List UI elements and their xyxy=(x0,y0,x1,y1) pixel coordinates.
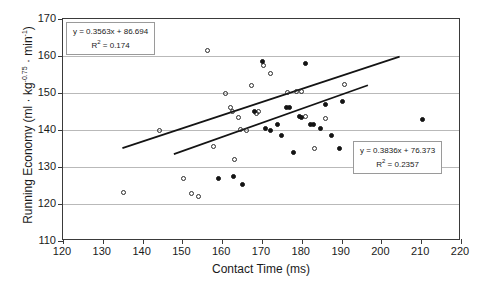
data-point-open-circles xyxy=(323,116,328,121)
x-tick-label: 190 xyxy=(321,246,361,257)
data-point-filled-circles xyxy=(260,59,265,64)
data-point-open-circles xyxy=(189,191,194,196)
data-point-open-circles xyxy=(249,83,254,88)
x-tick-mark xyxy=(182,239,183,244)
data-point-open-circles xyxy=(223,91,228,96)
y-tick-mark xyxy=(58,167,63,168)
data-point-filled-circles xyxy=(268,128,273,133)
x-tick-label: 120 xyxy=(42,246,82,257)
x-tick-mark xyxy=(63,239,64,244)
y-tick-mark xyxy=(58,204,63,205)
upper-equation-text: y = 0.3563x + 86.694 xyxy=(73,26,148,37)
data-point-open-circles xyxy=(196,194,201,199)
data-point-filled-circles xyxy=(340,99,345,104)
data-point-filled-circles xyxy=(287,105,292,110)
x-tick-mark xyxy=(143,239,144,244)
data-point-filled-circles xyxy=(420,117,425,122)
x-tick-label: 220 xyxy=(440,246,480,257)
x-tick-label: 160 xyxy=(201,246,241,257)
x-tick-mark xyxy=(302,239,303,244)
x-tick-label: 140 xyxy=(122,246,162,257)
data-point-open-circles xyxy=(121,190,126,195)
data-point-open-circles xyxy=(230,109,235,114)
data-point-filled-circles xyxy=(303,61,308,66)
scatter-chart: 110120130140150160170 120130140150160170… xyxy=(0,0,486,284)
x-tick-mark xyxy=(342,239,343,244)
data-point-open-circles xyxy=(244,128,249,133)
lower-r2-text: R2 = 0.2357 xyxy=(360,156,435,170)
x-tick-label: 200 xyxy=(360,246,400,257)
data-point-open-circles xyxy=(299,89,304,94)
data-point-open-circles xyxy=(285,90,290,95)
x-tick-label: 150 xyxy=(161,246,201,257)
data-point-filled-circles xyxy=(216,176,221,181)
y-tick-mark xyxy=(58,93,63,94)
y-tick-mark xyxy=(58,56,63,57)
data-point-filled-circles xyxy=(329,133,334,138)
lower-trendline-equation-box: y = 0.3836x + 76.373 R2 = 0.2357 xyxy=(353,141,442,174)
x-tick-mark xyxy=(421,239,422,244)
upper-r2-text: R2 = 0.174 xyxy=(73,37,148,51)
x-axis-tick-labels: 120130140150160170180190200210220 xyxy=(62,246,460,260)
data-point-open-circles xyxy=(205,48,210,53)
data-point-open-circles xyxy=(181,176,186,181)
data-point-filled-circles xyxy=(299,115,304,120)
lower-equation-text: y = 0.3836x + 76.373 xyxy=(360,145,435,156)
data-point-open-circles xyxy=(312,146,317,151)
x-tick-mark xyxy=(461,239,462,244)
data-point-filled-circles xyxy=(323,102,328,107)
x-tick-label: 170 xyxy=(241,246,281,257)
data-point-open-circles xyxy=(268,71,273,76)
x-tick-mark xyxy=(222,239,223,244)
y-tick-mark xyxy=(58,130,63,131)
data-point-open-circles xyxy=(157,128,162,133)
data-point-filled-circles xyxy=(252,109,257,114)
data-point-filled-circles xyxy=(337,146,342,151)
data-point-open-circles xyxy=(236,115,241,120)
data-point-open-circles xyxy=(303,114,308,119)
data-point-open-circles xyxy=(294,89,299,94)
data-point-filled-circles xyxy=(275,122,280,127)
x-tick-label: 130 xyxy=(82,246,122,257)
x-tick-label: 210 xyxy=(400,246,440,257)
y-tick-mark xyxy=(58,19,63,20)
data-point-filled-circles xyxy=(311,122,316,127)
x-tick-mark xyxy=(381,239,382,244)
data-point-open-circles xyxy=(261,63,266,68)
upper-trendline-equation-box: y = 0.3563x + 86.694 R2 = 0.174 xyxy=(66,22,155,55)
data-point-filled-circles xyxy=(291,150,296,155)
data-point-open-circles xyxy=(211,144,216,149)
data-point-open-circles xyxy=(232,157,237,162)
y-axis-title: Running Economy (ml · kg-0.75 · min-1) xyxy=(21,0,35,250)
data-point-open-circles xyxy=(342,82,347,87)
x-tick-mark xyxy=(262,239,263,244)
x-tick-label: 180 xyxy=(281,246,321,257)
data-point-filled-circles xyxy=(279,133,284,138)
x-axis-title: Contact Time (ms) xyxy=(62,262,460,276)
data-point-open-circles xyxy=(238,127,243,132)
data-point-filled-circles xyxy=(263,126,268,131)
data-point-filled-circles xyxy=(240,182,245,187)
data-point-filled-circles xyxy=(318,126,323,131)
data-point-filled-circles xyxy=(231,174,236,179)
x-tick-mark xyxy=(103,239,104,244)
